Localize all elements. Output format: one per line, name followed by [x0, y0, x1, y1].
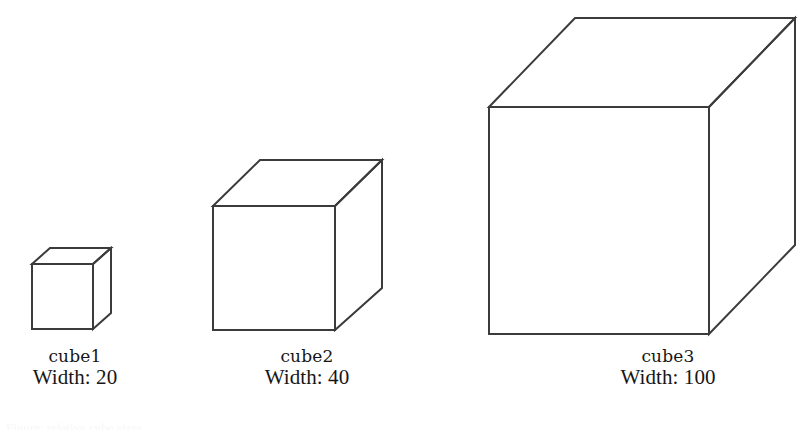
- cube3-name-label: cube3: [588, 347, 748, 365]
- cube2-name-label: cube2: [232, 347, 382, 365]
- cube1-right-face: [93, 248, 111, 329]
- cube3-width-label: Width: 100: [588, 366, 748, 389]
- cube1-width-label: Width: 20: [0, 366, 150, 389]
- cube-shape-cube3: [489, 18, 795, 334]
- cube1-top-face: [32, 248, 111, 264]
- cube2-right-face: [335, 160, 382, 330]
- cube2-top-face: [213, 160, 382, 206]
- cube2-width-label: Width: 40: [232, 366, 382, 389]
- cube3-right-face: [709, 18, 795, 334]
- cube3-front-face: [489, 107, 709, 334]
- cube-shape-cube1: [32, 248, 111, 329]
- figure-canvas: cube1 Width: 20 cube2 Width: 40 cube3 Wi…: [0, 0, 810, 431]
- cube-caption-cube1: cube1 Width: 20: [0, 347, 150, 389]
- cube-shape-cube2: [213, 160, 382, 330]
- cube1-name-label: cube1: [0, 347, 150, 365]
- cube-caption-cube3: cube3 Width: 100: [588, 347, 748, 389]
- cube2-front-face: [213, 206, 335, 330]
- cube3-top-face: [489, 18, 795, 107]
- cube-caption-cube2: cube2 Width: 40: [232, 347, 382, 389]
- cube1-front-face: [32, 264, 93, 329]
